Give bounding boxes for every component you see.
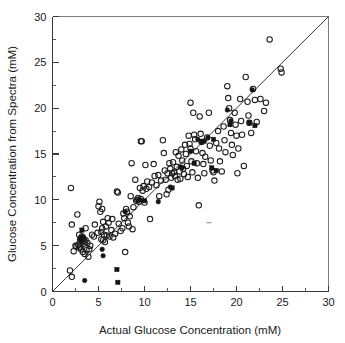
data-point-filled-square xyxy=(202,139,206,143)
data-point-filled-square xyxy=(192,161,196,165)
y-tick-label: 0 xyxy=(40,286,46,298)
y-tick-label: 5 xyxy=(40,240,46,252)
y-tick-label: 10 xyxy=(34,194,46,206)
x-tick-label: 10 xyxy=(138,296,150,308)
data-point-filled-square xyxy=(142,199,146,203)
y-tick-label: 15 xyxy=(34,148,46,160)
x-tick-label: 20 xyxy=(230,296,242,308)
data-point-filled-circle xyxy=(225,108,230,113)
data-point-filled-circle xyxy=(156,199,161,204)
data-point-filled-square xyxy=(188,149,192,153)
data-point-filled-square xyxy=(228,122,232,126)
x-tick-label: 15 xyxy=(184,296,196,308)
plot-canvas: 051015202530 051015202530 Actual Glucose… xyxy=(0,0,345,343)
data-point-filled-circle xyxy=(82,278,87,283)
data-point-filled-square xyxy=(80,228,84,232)
x-tick-label: 0 xyxy=(49,296,55,308)
data-point-filled-square xyxy=(247,121,251,125)
data-point-filled-circle xyxy=(80,235,85,240)
scatter-plot-figure: 051015202530 051015202530 Actual Glucose… xyxy=(0,0,345,343)
data-point-filled-circle xyxy=(250,88,255,93)
data-point-filled-square xyxy=(170,186,174,190)
data-point-filled-circle xyxy=(100,247,105,252)
y-tick-label: 30 xyxy=(34,11,46,23)
data-point-filled-square xyxy=(209,166,213,170)
x-tick-label: 25 xyxy=(276,296,288,308)
x-axis-title: Actual Glucose Concentration (mM) xyxy=(99,324,281,336)
x-tick-label: 30 xyxy=(322,296,334,308)
data-point-filled-circle xyxy=(101,253,106,258)
data-point-filled-circle xyxy=(123,209,128,214)
y-axis-title: Glucose Concentration from Spectra (mM) xyxy=(6,46,18,262)
x-tick-label: 5 xyxy=(95,296,101,308)
y-tick-label: 25 xyxy=(34,56,46,68)
stray-mark xyxy=(206,222,211,223)
data-point-filled-circle xyxy=(180,165,185,170)
data-point-filled-square xyxy=(115,267,119,271)
y-tick-label: 20 xyxy=(34,102,46,114)
data-point-filled-square xyxy=(214,168,218,172)
data-point-filled-square xyxy=(116,280,120,284)
data-point-filled-square xyxy=(211,137,215,141)
data-point-filled-circle xyxy=(138,198,143,203)
stray-marks xyxy=(206,222,211,223)
data-point-filled-square xyxy=(253,123,257,127)
